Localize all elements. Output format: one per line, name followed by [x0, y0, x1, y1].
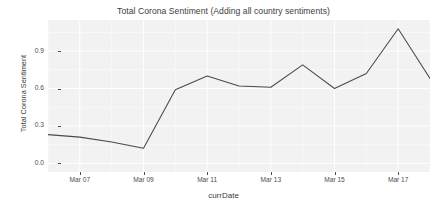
x-tick-mark — [80, 172, 81, 175]
x-tick-mark — [207, 172, 208, 175]
x-tick-label: Mar 09 — [114, 177, 174, 184]
x-axis-title: currDate — [0, 191, 447, 200]
x-tick-mark — [271, 172, 272, 175]
x-tick-label: Mar 17 — [368, 177, 428, 184]
y-axis-title: Total Corona Sentiment — [19, 24, 28, 164]
x-tick-label: Mar 13 — [241, 177, 301, 184]
x-tick-mark — [398, 172, 399, 175]
x-tick-mark — [144, 172, 145, 175]
x-tick-label: Mar 11 — [177, 177, 237, 184]
x-axis-ticks: Mar 07Mar 09Mar 11Mar 13Mar 15Mar 17 — [0, 0, 447, 210]
x-tick-mark — [335, 172, 336, 175]
chart-container: Total Corona Sentiment (Adding all count… — [0, 0, 447, 210]
x-tick-label: Mar 15 — [305, 177, 365, 184]
x-tick-label: Mar 07 — [50, 177, 110, 184]
